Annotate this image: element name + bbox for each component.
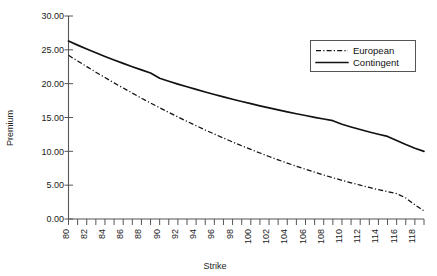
x-tick-label: 92 <box>170 229 180 239</box>
x-tick-label: 100 <box>243 229 253 244</box>
y-tick-label: 25.00 <box>41 45 64 55</box>
x-tick-label: 90 <box>152 229 162 239</box>
x-tick-label: 82 <box>79 229 89 239</box>
x-axis-tick-marks <box>69 219 425 225</box>
y-tick-label: 5.00 <box>46 180 64 190</box>
y-tick-label: 20.00 <box>41 79 64 89</box>
y-tick-label: 0.00 <box>46 214 64 224</box>
x-tick-label: 104 <box>279 229 289 244</box>
x-tick-label: 80 <box>61 229 71 239</box>
x-tick-label: 102 <box>261 229 271 244</box>
x-axis-title: Strike <box>203 261 226 271</box>
legend-label-european: European <box>353 45 394 56</box>
x-tick-label: 98 <box>225 229 235 239</box>
x-tick-label: 106 <box>298 229 308 244</box>
x-tick-label: 94 <box>188 229 198 239</box>
y-tick-label: 10.00 <box>41 147 64 157</box>
x-tick-label: 84 <box>97 229 107 239</box>
chart-legend: European Contingent <box>311 41 416 72</box>
y-axis-tick-labels: 0.005.0010.0015.0020.0025.0030.00 <box>41 11 64 224</box>
x-tick-label: 110 <box>334 229 344 243</box>
x-tick-label: 96 <box>206 229 216 239</box>
y-tick-label: 15.00 <box>41 113 64 123</box>
x-tick-label: 114 <box>370 229 380 243</box>
x-axis-tick-labels: 8082848688909294969810010210410610811011… <box>61 229 417 244</box>
x-tick-label: 86 <box>115 229 125 239</box>
x-tick-label: 112 <box>352 229 362 243</box>
y-tick-label: 30.00 <box>41 11 64 21</box>
legend-label-contingent: Contingent <box>353 57 399 68</box>
x-tick-label: 108 <box>316 229 326 244</box>
chart-container: 0.005.0010.0015.0020.0025.0030.00 808284… <box>0 0 437 276</box>
x-tick-label: 88 <box>133 229 143 239</box>
y-axis-title: Premium <box>5 110 15 146</box>
x-tick-label: 116 <box>389 229 399 243</box>
premium-vs-strike-line-chart: 0.005.0010.0015.0020.0025.0030.00 808284… <box>0 0 437 276</box>
x-tick-label: 118 <box>407 229 417 243</box>
